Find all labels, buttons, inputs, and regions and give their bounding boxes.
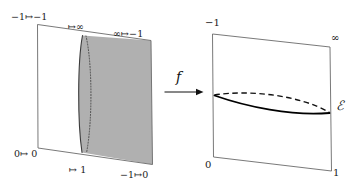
map-arrow-group — [165, 89, 204, 95]
left-shaded-region — [79, 36, 153, 165]
left-label-bottom-mid: ↦ 1 — [69, 165, 86, 175]
left-label-bottom-left: 0↦ 0 — [14, 149, 37, 159]
map-arrow-head — [196, 89, 204, 95]
left-label-bottom-right: −1↦0 — [120, 170, 148, 180]
right-label-top-left: −1 — [205, 18, 220, 28]
figure-canvas — [0, 0, 357, 184]
right-label-top-right: ∞ — [331, 33, 339, 43]
right-label-bottom-left: 0 — [205, 160, 211, 170]
left-label-top-left: −1↦−1 — [11, 12, 47, 22]
right-panel-outline — [213, 34, 332, 171]
right-panel-group — [213, 34, 332, 171]
map-arrow-label: f — [176, 70, 181, 84]
math-figure: −1↦−1 ↦∞ ∞↦−1 0↦ 0 ↦ 1 −1↦0 f −1 ∞ 0 1 ℰ — [0, 0, 357, 184]
right-label-curve-E: ℰ — [336, 99, 344, 112]
right-label-bottom-right: 1 — [333, 168, 339, 178]
left-label-top-right: ∞↦−1 — [113, 29, 143, 39]
left-label-top-mid: ↦∞ — [68, 22, 84, 32]
left-panel-group — [38, 25, 153, 165]
